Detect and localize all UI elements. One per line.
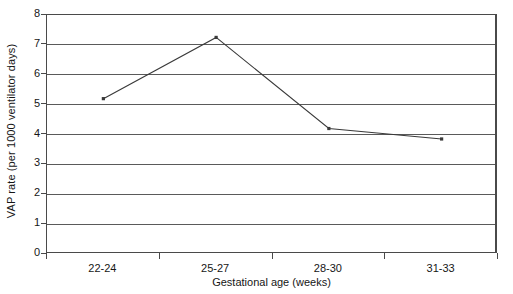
data-point-22-24 [102, 97, 105, 100]
y-tick-label-4: 4 [22, 127, 40, 139]
x-axis-title: Gestational age (weeks) [46, 276, 497, 288]
x-tick-mark-3 [384, 253, 385, 259]
x-tick-mark-2 [272, 253, 273, 259]
y-tick-label-7: 7 [22, 37, 40, 49]
y-axis-title-container: VAP rate (per 1000 ventilator days) [0, 0, 22, 262]
x-tick-mark-1 [159, 253, 160, 259]
y-tick-label-1: 1 [22, 216, 40, 228]
data-point-31-33 [440, 137, 443, 140]
x-tick-mark-4 [497, 253, 498, 259]
data-point-25-27 [215, 36, 218, 39]
x-tick-label-28-30: 28-30 [288, 262, 368, 274]
x-tick-mark-0 [46, 253, 47, 259]
y-tick-label-3: 3 [22, 156, 40, 168]
series-line-vap-rate [47, 15, 498, 254]
y-tick-label-6: 6 [22, 67, 40, 79]
x-tick-label-25-27: 25-27 [175, 262, 255, 274]
x-tick-label-22-24: 22-24 [62, 262, 142, 274]
y-axis-title: VAP rate (per 1000 ventilator days) [5, 44, 17, 218]
chart-figure: VAP rate (per 1000 ventilator days) 0123… [0, 0, 513, 294]
y-tick-label-0: 0 [22, 246, 40, 258]
y-tick-label-5: 5 [22, 97, 40, 109]
plot-area [46, 14, 497, 253]
data-point-28-30 [327, 127, 330, 130]
y-tick-label-8: 8 [22, 7, 40, 19]
vap-rate-line [103, 37, 441, 139]
y-tick-label-2: 2 [22, 186, 40, 198]
x-tick-label-31-33: 31-33 [401, 262, 481, 274]
